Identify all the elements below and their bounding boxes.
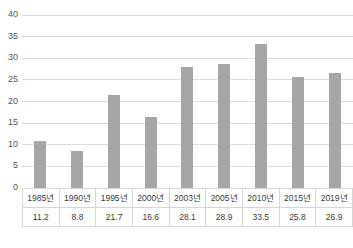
plot-area: 0510152025303540 — [0, 0, 353, 190]
bar-slot — [169, 1, 206, 189]
bar — [108, 95, 120, 189]
chart-data-table: 1985년1990년1995년2000년2003년2005년2010년2015년… — [22, 188, 353, 227]
y-axis-tick-label: 30 — [2, 53, 18, 62]
table-cell-value: 28.9 — [206, 208, 243, 227]
table-cell-value: 25.8 — [279, 208, 316, 227]
bar — [181, 67, 193, 189]
bar — [329, 73, 341, 189]
y-axis-tick-label: 40 — [2, 10, 18, 19]
bar-slot — [96, 1, 133, 189]
y-axis-tick-label: 0 — [2, 183, 18, 192]
bar-slot — [59, 1, 96, 189]
bar-slot — [206, 1, 243, 189]
bar — [34, 141, 46, 189]
table-cell-value: 33.5 — [242, 208, 279, 227]
bar-slot — [279, 1, 316, 189]
bar — [218, 64, 230, 189]
table-cell-category: 1990년 — [59, 189, 96, 208]
bar — [255, 44, 267, 189]
y-axis-tick-label: 5 — [2, 161, 18, 170]
table-cell-category: 2019년 — [316, 189, 353, 208]
bar — [145, 117, 157, 189]
table-cell-category: 2010년 — [242, 189, 279, 208]
bar-slot — [132, 1, 169, 189]
bars-group — [22, 0, 353, 189]
y-axis-tick-label: 10 — [2, 140, 18, 149]
table-cell-category: 2003년 — [169, 189, 206, 208]
bar — [292, 77, 304, 189]
y-axis-tick-label: 35 — [2, 32, 18, 41]
table-cell-category: 2005년 — [206, 189, 243, 208]
table-cell-category: 1995년 — [96, 189, 133, 208]
y-axis-tick-label: 20 — [2, 97, 18, 106]
bar-chart-figure: 0510152025303540 1985년1990년1995년2000년200… — [0, 0, 353, 248]
table-cell-category: 1985년 — [23, 189, 60, 208]
table-cell-category: 2015년 — [279, 189, 316, 208]
table-cell-value: 21.7 — [96, 208, 133, 227]
bar-slot — [22, 1, 59, 189]
bar-slot — [243, 1, 280, 189]
table-cell-value: 8.8 — [59, 208, 96, 227]
table-cell-value: 26.9 — [316, 208, 353, 227]
table-row-values: 11.28.821.716.628.128.933.525.826.9 — [23, 208, 353, 227]
bar-slot — [316, 1, 353, 189]
table-cell-value: 16.6 — [132, 208, 169, 227]
y-axis-tick-label: 25 — [2, 75, 18, 84]
table-cell-value: 11.2 — [23, 208, 60, 227]
table-row-categories: 1985년1990년1995년2000년2003년2005년2010년2015년… — [23, 189, 353, 208]
y-axis-tick-label: 15 — [2, 118, 18, 127]
bar — [71, 151, 83, 189]
table-cell-category: 2000년 — [132, 189, 169, 208]
table-cell-value: 28.1 — [169, 208, 206, 227]
